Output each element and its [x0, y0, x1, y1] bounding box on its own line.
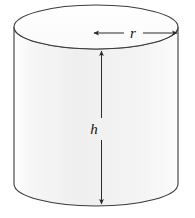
- cylinder-body: [14, 27, 178, 206]
- height-label: h: [90, 121, 98, 137]
- cylinder-lateral-surface: [14, 27, 178, 206]
- radius-label: r: [130, 25, 136, 41]
- cylinder-top-face: [14, 5, 178, 49]
- top-ellipse: [14, 5, 178, 49]
- cylinder-figure: r h: [0, 0, 195, 218]
- cylinder-illustration: r h: [0, 0, 195, 218]
